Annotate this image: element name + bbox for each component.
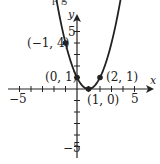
x-axis-label: x	[150, 74, 157, 87]
y-axis-label: y	[67, 8, 75, 21]
x-tick-label-5: 5	[131, 92, 139, 106]
point-label-2-1: (2, 1)	[106, 70, 138, 84]
point-label-1-0: (1, 0)	[87, 93, 119, 107]
x-tick-label-neg5: −5	[9, 92, 27, 106]
point-label-neg1-4: (−1, 4)	[27, 36, 69, 50]
y-tick-label-neg5: −5	[63, 141, 81, 155]
parabola-graph: x y −5 5 5 −5 (−1, 4) (0, 1) (1, 0) (2, …	[0, 0, 160, 164]
point-marker	[86, 86, 92, 92]
point-label-0-1: (0, 1)	[45, 70, 77, 84]
point-marker	[97, 75, 103, 81]
